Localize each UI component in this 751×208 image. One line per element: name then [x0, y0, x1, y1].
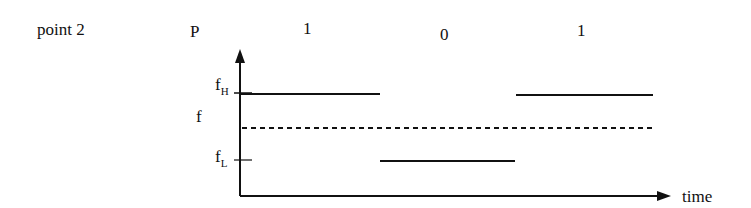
y-axis-arrow-icon — [235, 49, 245, 63]
x-axis-arrow-icon — [657, 191, 671, 201]
fsk-plot — [0, 0, 751, 208]
